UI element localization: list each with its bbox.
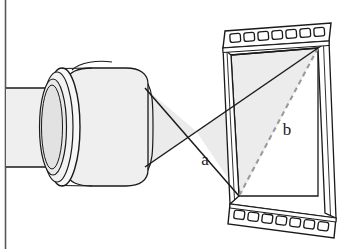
sprocket-hole-top-7 [314,27,325,36]
lens-ring-tangent-top [62,68,92,69]
sprocket-hole-bottom-6 [303,219,314,229]
sprocket-hole-top-1 [230,33,241,42]
lens-ring-tangent-bottom [62,186,92,187]
sprocket-hole-top-6 [300,28,311,37]
lens-glass-element [42,85,63,169]
sprocket-hole-top-5 [286,29,297,38]
figure-container: a b [0,0,352,249]
lens-film-diagram: a b [0,0,352,249]
sprocket-hole-top-3 [258,31,269,40]
sprocket-hole-bottom-4 [276,216,287,226]
label-b: b [283,120,292,139]
sprocket-hole-bottom-7 [317,221,328,231]
sprocket-hole-top-4 [272,30,283,39]
sprocket-hole-bottom-5 [289,218,300,228]
sprocket-hole-bottom-2 [248,212,259,222]
sprocket-hole-bottom-1 [234,210,245,220]
sprocket-hole-bottom-3 [262,214,273,224]
label-a: a [201,150,209,169]
sprocket-hole-top-2 [244,32,255,41]
